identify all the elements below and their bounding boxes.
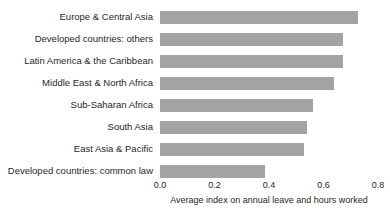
bar-chart: Europe & Central Asia Developed countrie… bbox=[0, 0, 390, 215]
category-label: Europe & Central Asia bbox=[60, 10, 153, 24]
category-label: Middle East & North Africa bbox=[42, 76, 153, 90]
bar bbox=[160, 55, 343, 68]
category-label: Sub-Saharan Africa bbox=[71, 98, 153, 112]
x-tick-label: 0.8 bbox=[372, 179, 385, 191]
bar bbox=[160, 11, 358, 24]
category-label: Developed countries: common law bbox=[8, 164, 153, 178]
x-tick-label: 0.2 bbox=[208, 179, 221, 191]
bar-row: Europe & Central Asia bbox=[160, 4, 378, 26]
bar bbox=[160, 33, 343, 46]
x-tick-label: 0.4 bbox=[263, 179, 276, 191]
bar-row: Sub-Saharan Africa bbox=[160, 92, 378, 114]
bar bbox=[160, 165, 265, 178]
x-axis-title: Average index on annual leave and hours … bbox=[160, 194, 378, 206]
bar bbox=[160, 121, 307, 134]
category-label: East Asia & Pacific bbox=[74, 142, 153, 156]
bar-row: Latin America & the Caribbean bbox=[160, 48, 378, 70]
bar-row: Developed countries: others bbox=[160, 26, 378, 48]
bar bbox=[160, 99, 313, 112]
category-label: Developed countries: others bbox=[35, 32, 153, 46]
x-tick-label: 0.0 bbox=[154, 179, 167, 191]
x-tick-label: 0.6 bbox=[317, 179, 330, 191]
category-label: South Asia bbox=[108, 120, 153, 134]
bar bbox=[160, 143, 304, 156]
bar-row: Middle East & North Africa bbox=[160, 70, 378, 92]
bar-row: South Asia bbox=[160, 114, 378, 136]
bar bbox=[160, 77, 334, 90]
bar-row: Developed countries: common law bbox=[160, 158, 378, 180]
category-label: Latin America & the Caribbean bbox=[24, 54, 153, 68]
plot-area: Europe & Central Asia Developed countrie… bbox=[160, 4, 378, 176]
x-axis: 0.0 0.2 0.4 0.6 0.8 bbox=[160, 179, 378, 193]
bar-row: East Asia & Pacific bbox=[160, 136, 378, 158]
